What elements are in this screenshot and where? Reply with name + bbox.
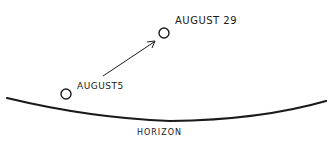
label-august-29: AUGUST 29 — [175, 15, 237, 26]
diagram-drawing — [0, 0, 334, 143]
point-august-29 — [159, 28, 169, 38]
motion-arrow-shaft — [103, 42, 154, 76]
label-august-5: AUGUST5 — [77, 81, 124, 91]
horizon-label: HORIZON — [137, 128, 182, 137]
horizon-line — [7, 98, 326, 121]
point-august-5 — [61, 89, 71, 99]
diagram-canvas: AUGUST 29 AUGUST5 HORIZON — [0, 0, 334, 143]
